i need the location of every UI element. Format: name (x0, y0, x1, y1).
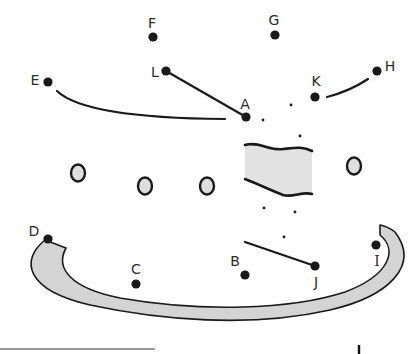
oval-shape (200, 178, 214, 195)
point-i-dot (371, 240, 380, 249)
segment-e-a (57, 91, 225, 119)
curved-band (31, 225, 404, 320)
point-label-i: I (374, 254, 380, 268)
point-b-dot (240, 270, 249, 279)
connect-the-dots-puzzle: ABCDEFGHIJKL (0, 0, 420, 354)
point-c-dot (131, 279, 140, 288)
bottom-marks (0, 345, 359, 354)
oval-shape (347, 158, 361, 175)
point-l-dot (161, 66, 170, 75)
point-label-e: E (31, 73, 40, 87)
small-dot (294, 211, 297, 214)
point-label-d: D (29, 224, 40, 238)
ovals (71, 158, 361, 195)
wavy-rect-fill (245, 144, 312, 196)
point-label-k: K (311, 74, 320, 88)
small-dot (290, 104, 293, 107)
point-g-dot (270, 30, 279, 39)
small-dot (263, 207, 266, 210)
point-label-b: B (230, 254, 240, 268)
point-d-dot (43, 234, 52, 243)
point-label-j: J (314, 275, 318, 289)
point-e-dot (43, 77, 52, 86)
labeled-points (43, 30, 381, 288)
point-label-h: H (385, 59, 396, 73)
point-label-l: L (151, 65, 159, 79)
segment-b-j (245, 242, 315, 266)
segment-l-a (166, 71, 246, 117)
point-h-dot (372, 66, 381, 75)
wavy-rectangle (245, 144, 312, 196)
band-path (31, 225, 404, 320)
point-a-dot (241, 112, 250, 121)
oval-shape (71, 165, 85, 182)
small-dot (299, 135, 302, 138)
point-label-f: F (148, 16, 156, 30)
point-f-dot (148, 32, 157, 41)
segment-k-h (327, 79, 368, 97)
point-label-g: G (269, 13, 280, 27)
point-k-dot (310, 92, 319, 101)
drawn-segments (57, 71, 368, 266)
point-label-c: C (131, 262, 141, 276)
small-dot (283, 236, 286, 239)
puzzle-canvas (0, 0, 420, 354)
point-label-a: A (240, 97, 250, 111)
point-j-dot (310, 261, 319, 270)
small-dot (262, 119, 265, 122)
oval-shape (138, 178, 152, 195)
